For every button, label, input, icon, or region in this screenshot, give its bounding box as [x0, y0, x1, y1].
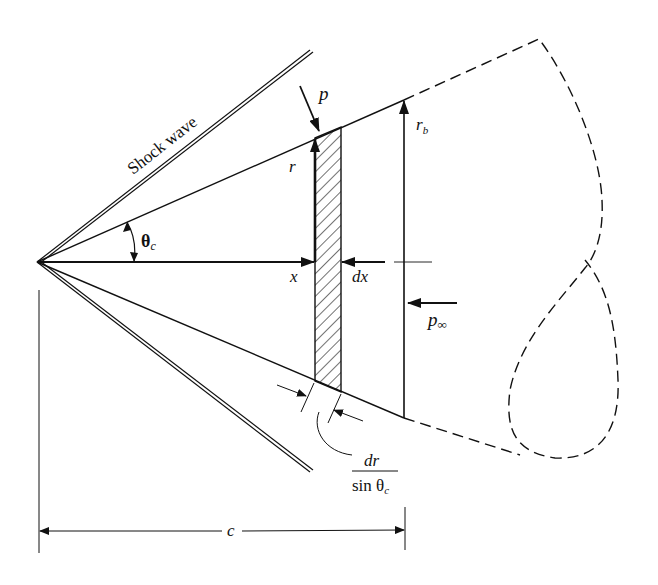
- body-outline-dashed: [404, 39, 618, 458]
- cone-upper-edge: [37, 100, 404, 262]
- slant-leader: [317, 412, 352, 455]
- pressure-arrow: [300, 86, 319, 131]
- dx-label: dx: [352, 267, 369, 286]
- shock-wave-upper: [37, 50, 313, 263]
- base-radius-label: rb: [416, 115, 429, 136]
- base-radius-sub: b: [423, 124, 429, 136]
- cone-angle-sub: c: [150, 239, 156, 253]
- freestream-pressure-sub: ∞: [438, 317, 447, 332]
- slant-denominator-sub: c: [384, 484, 389, 496]
- hatched-strip: [315, 127, 341, 392]
- slant-denominator: sin θc: [352, 476, 389, 496]
- cone-angle-arrowhead-bottom: [130, 252, 138, 262]
- slant-numerator: dr: [364, 451, 380, 470]
- pressure-label: p: [317, 83, 329, 104]
- radius-label: r: [289, 157, 296, 176]
- x-label: x: [289, 267, 298, 286]
- freestream-pressure-main: p: [426, 309, 438, 330]
- cone-angle-label: θc: [141, 231, 156, 253]
- slant-denominator-main: sin θ: [352, 476, 384, 495]
- freestream-pressure-label: p∞: [426, 309, 447, 332]
- slant-tick-left: [301, 383, 314, 412]
- cone-lower-edge: [37, 262, 404, 418]
- cone-diagram: Shock wave p r rb θc x dx p∞ dr sin θc c: [0, 0, 658, 585]
- shock-wave-lower: [37, 261, 313, 472]
- length-arrow-right: [242, 530, 404, 531]
- slant-tick-right: [328, 394, 341, 423]
- slant-arrow-left: [277, 385, 306, 396]
- slant-arrow-right: [334, 410, 363, 421]
- cone-angle-main: θ: [141, 231, 150, 251]
- length-label: c: [227, 521, 235, 540]
